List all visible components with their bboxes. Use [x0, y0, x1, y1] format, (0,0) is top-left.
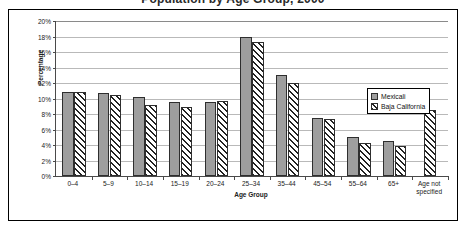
legend-item-0: Mexicali — [371, 91, 425, 101]
x-tick-mark — [448, 176, 449, 180]
bar-group — [199, 21, 235, 176]
chart-title: Population by Age Group, 2000 — [0, 0, 466, 6]
x-tick-label: 20–24 — [198, 180, 234, 188]
bar — [62, 92, 74, 176]
bar-group — [92, 21, 128, 176]
bar — [276, 75, 288, 176]
chart-legend: Mexicali Baja California — [367, 88, 430, 114]
bar — [359, 143, 371, 176]
x-tick-label: 0–4 — [55, 180, 91, 188]
bar-group — [163, 21, 199, 176]
bar — [347, 137, 359, 176]
bar-group — [270, 21, 306, 176]
y-tick-label: 18% — [38, 33, 51, 40]
legend-swatch-baja-california — [371, 103, 378, 110]
bar — [252, 42, 264, 176]
y-tick-label: 14% — [38, 64, 51, 71]
chart-frame: Percentage 0%2%4%6%8%10%12%14%16%18%20% … — [8, 9, 458, 221]
y-tick-label: 16% — [38, 49, 51, 56]
bar-group — [305, 21, 341, 176]
legend-swatch-mexicali — [371, 93, 378, 100]
legend-label-baja-california: Baja California — [381, 103, 425, 110]
bar-group — [56, 21, 92, 176]
bar — [145, 105, 157, 176]
bar — [324, 119, 336, 176]
y-tick-label: 8% — [42, 111, 51, 118]
bar — [288, 83, 300, 176]
x-tick-label: 10–14 — [126, 180, 162, 188]
y-tick-label: 0% — [42, 173, 51, 180]
y-tick-label: 6% — [42, 126, 51, 133]
y-tick-label: 12% — [38, 80, 51, 87]
bar — [110, 95, 122, 176]
chart-title-strip: Population by Age Group, 2000 — [0, 0, 466, 9]
bar — [133, 97, 145, 176]
bar — [424, 110, 436, 176]
bar — [98, 93, 110, 176]
chart-screenshot: Population by Age Group, 2000 Percentage… — [0, 0, 466, 239]
y-tick-label: 10% — [38, 95, 51, 102]
bar — [240, 37, 252, 177]
bar — [217, 101, 229, 176]
legend-label-mexicali: Mexicali — [381, 93, 406, 100]
x-tick-label: 35–44 — [269, 180, 305, 188]
x-tick-label: 55–64 — [340, 180, 376, 188]
x-tick-label: 65+ — [376, 180, 412, 188]
y-tick-mark — [53, 176, 56, 177]
x-tick-label: 25–34 — [233, 180, 269, 188]
bar — [395, 146, 407, 176]
y-tick-label: 2% — [42, 157, 51, 164]
bar — [383, 141, 395, 176]
bar — [169, 102, 181, 176]
x-axis-title: Age Group — [55, 191, 447, 198]
legend-item-1: Baja California — [371, 101, 425, 111]
bar — [205, 102, 217, 176]
bar-group — [234, 21, 270, 176]
y-tick-label: 4% — [42, 142, 51, 149]
y-tick-label: 20% — [38, 18, 51, 25]
bar — [181, 107, 193, 176]
bar — [312, 118, 324, 176]
x-tick-label: 15–19 — [162, 180, 198, 188]
x-tick-label: 45–54 — [304, 180, 340, 188]
bar-group — [127, 21, 163, 176]
x-tick-label: 5–9 — [91, 180, 127, 188]
bar — [74, 92, 86, 176]
